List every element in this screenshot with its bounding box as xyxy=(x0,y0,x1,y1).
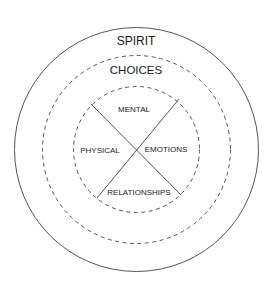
choices-label: CHOICES xyxy=(110,64,163,76)
wellness-diagram: SPIRIT CHOICES MENTAL PHYSICAL EMOTIONS … xyxy=(0,0,271,282)
relationships-label: RELATIONSHIPS xyxy=(107,188,170,197)
physical-label: PHYSICAL xyxy=(80,146,120,155)
spirit-label: SPIRIT xyxy=(117,34,156,48)
mental-label: MENTAL xyxy=(118,105,150,114)
emotions-label: EMOTIONS xyxy=(145,145,188,154)
